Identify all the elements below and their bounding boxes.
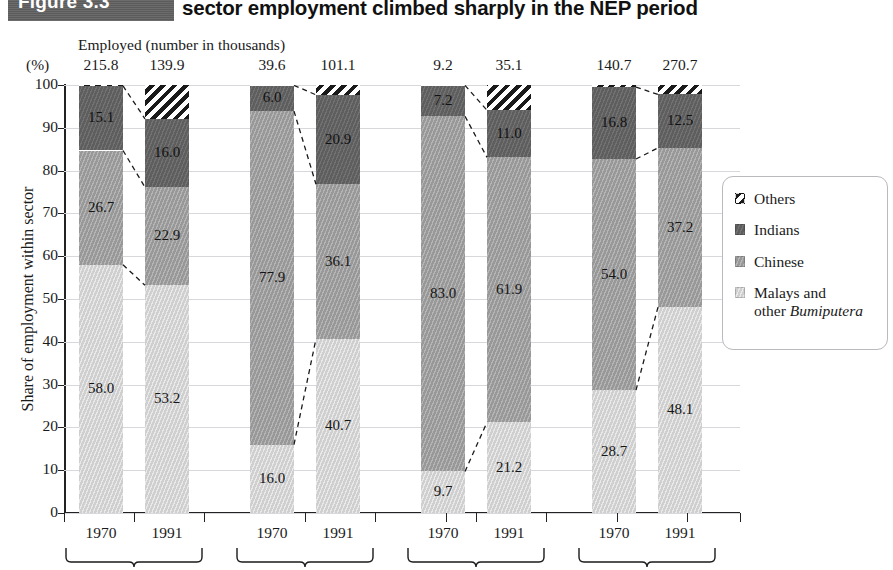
y-axis-tick-label: 60 (24, 246, 58, 264)
bar-segment-malays: 16.0 (250, 445, 294, 513)
bar-segment-malays: 48.1 (658, 307, 702, 513)
bar-total-label: 101.1 (298, 56, 378, 74)
legend-label-chinese: Chinese (754, 253, 804, 271)
stacked-bar: 28.754.016.8 (592, 85, 636, 513)
y-axis-tick-label: 10 (24, 460, 58, 478)
bar-segment-indians: 11.0 (487, 110, 531, 157)
bar-segment-others (658, 85, 702, 94)
stacked-bar: 53.222.916.0 (145, 85, 189, 513)
connector-line (123, 265, 145, 286)
legend-item-malays[interactable]: Malays andother Bumiputera (735, 284, 887, 321)
bar-segment-malays: 53.2 (145, 285, 189, 513)
y-axis-tick-label: 20 (24, 417, 58, 435)
legend-label-malays: Malays andother Bumiputera (754, 284, 863, 321)
segment-value-label: 12.5 (658, 113, 702, 128)
segment-value-label: 16.0 (250, 471, 294, 486)
bar-segment-chinese: 54.0 (592, 159, 636, 390)
segment-value-label: 61.9 (487, 282, 531, 297)
bar-segment-malays: 40.7 (316, 339, 360, 513)
x-axis-tick (687, 513, 688, 522)
x-axis-tick (617, 513, 618, 522)
legend-label-others: Others (754, 190, 795, 208)
bar-total-label: 35.1 (469, 56, 549, 74)
connector-line (294, 111, 316, 184)
bar-segment-chinese: 22.9 (145, 187, 189, 285)
connector-line (294, 339, 316, 445)
connector-line (123, 86, 145, 119)
x-axis-tick (740, 513, 741, 522)
y-axis-tick-label: 90 (24, 118, 58, 136)
segment-value-label: 15.1 (79, 110, 123, 125)
legend-item-chinese[interactable]: Chinese (735, 253, 887, 271)
bar-segment-indians: 16.8 (592, 87, 636, 159)
x-axis-year-label: 1991 (479, 524, 539, 542)
segment-value-label: 11.0 (487, 126, 531, 141)
bar-segment-malays: 58.0 (79, 265, 123, 513)
bar-segment-malays: 9.7 (421, 471, 465, 513)
segment-value-label: 6.0 (250, 90, 294, 105)
bar-segment-chinese: 26.7 (79, 151, 123, 265)
segment-value-label: 77.9 (250, 270, 294, 285)
segment-value-label: 83.0 (421, 286, 465, 301)
x-axis-tick (305, 513, 306, 522)
bar-total-label: 270.7 (640, 56, 720, 74)
bar-segment-indians: 20.9 (316, 95, 360, 184)
bar-segment-others (79, 85, 123, 86)
bar-segment-indians: 7.2 (421, 85, 465, 116)
legend-label-indians: Indians (754, 221, 800, 239)
bar-segment-malays: 21.2 (487, 422, 531, 513)
segment-value-label: 16.0 (145, 145, 189, 160)
bar-segment-chinese: 36.1 (316, 184, 360, 339)
segment-value-label: 9.7 (421, 484, 465, 499)
segment-value-label: 53.2 (145, 391, 189, 406)
x-axis-year-label: 1991 (308, 524, 368, 542)
x-axis-year-label: 1970 (584, 524, 644, 542)
segment-value-label: 58.0 (79, 381, 123, 396)
legend-swatch-malays-icon (735, 287, 745, 298)
bar-total-label: 139.9 (127, 56, 207, 74)
connector-line (636, 87, 658, 94)
segment-value-label: 28.7 (592, 444, 636, 459)
segment-value-label: 26.7 (79, 200, 123, 215)
x-axis-tick (134, 513, 135, 522)
segment-value-label: 40.7 (316, 418, 360, 433)
y-axis-tick-label: 70 (24, 203, 58, 221)
stacked-bar: 16.077.96.0 (250, 85, 294, 513)
connector-line (465, 422, 487, 471)
gridline (64, 513, 740, 514)
group-brace (236, 548, 374, 568)
stacked-bar: 48.137.212.5 (658, 85, 702, 513)
legend-item-indians[interactable]: Indians (735, 221, 887, 239)
bar-segment-others (592, 85, 636, 87)
y-axis-tick-label: 40 (24, 332, 58, 350)
bar-segment-indians: 12.5 (658, 94, 702, 148)
stacked-bar: 40.736.120.9 (316, 85, 360, 513)
bar-segment-chinese: 61.9 (487, 157, 531, 422)
y-axis-tick-label: 80 (24, 161, 58, 179)
legend-swatch-indians-icon (735, 224, 745, 235)
y-axis-tick-label: 50 (24, 289, 58, 307)
segment-value-label: 48.1 (658, 402, 702, 417)
stacked-bar: 21.261.911.0 (487, 85, 531, 513)
page-title: sector employment climbed sharply in the… (182, 0, 698, 20)
connector-line (465, 85, 487, 110)
bar-segment-chinese: 77.9 (250, 111, 294, 444)
bar-segment-chinese: 37.2 (658, 148, 702, 307)
legend-item-others[interactable]: Others (735, 190, 887, 208)
x-axis-tick (64, 513, 65, 522)
x-axis-tick (476, 513, 477, 522)
plot-area: 58.026.715.153.222.916.016.077.96.040.73… (64, 85, 740, 513)
group-brace (407, 548, 545, 568)
y-axis-tick-labels: 0102030405060708090100 (20, 0, 58, 570)
segment-value-label: 22.9 (145, 228, 189, 243)
bar-segment-others (487, 85, 531, 110)
bar-segment-indians: 6.0 (250, 85, 294, 111)
chart-legend: OthersIndiansChineseMalays andother Bumi… (722, 176, 888, 350)
x-axis-tick (375, 513, 376, 522)
x-axis-tick (546, 513, 547, 522)
legend-swatch-chinese-icon (735, 256, 745, 267)
bar-segment-others (145, 85, 189, 119)
stacked-bar: 9.783.07.2 (421, 85, 465, 513)
segment-value-label: 16.8 (592, 115, 636, 130)
bar-segment-malays: 28.7 (592, 390, 636, 513)
